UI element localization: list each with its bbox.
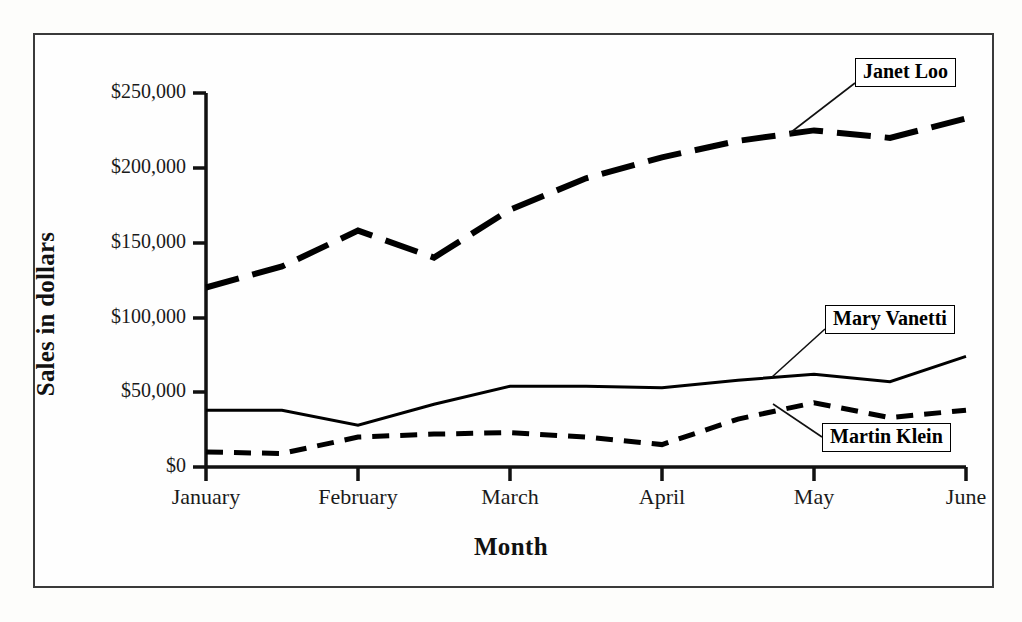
y-axis-title: Sales in dollars [32, 204, 60, 424]
x-axis-title: Month [0, 533, 1022, 561]
y-tick-label-50000: $50,000 [68, 379, 186, 402]
series-line-mary-vanetti [206, 356, 966, 425]
y-axis-ticks [193, 93, 206, 467]
series-callout-janet-loo[interactable]: Janet Loo [855, 58, 956, 87]
chart-page: $250,000 $200,000 $150,000 $100,000 $50,… [0, 0, 1022, 622]
x-axis-ticks [206, 467, 966, 481]
y-tick-label-250000: $250,000 [68, 80, 186, 103]
x-tick-label-january: January [136, 484, 276, 510]
x-tick-label-february: February [288, 484, 428, 510]
x-tick-label-april: April [592, 484, 732, 510]
leader-line-janet-loo [790, 83, 855, 133]
y-tick-label-200000: $200,000 [68, 155, 186, 178]
series-callout-martin-klein[interactable]: Martin Klein [822, 423, 951, 452]
y-tick-label-0: $0 [68, 454, 186, 477]
series-line-janet-loo [206, 118, 966, 287]
y-tick-label-150000: $150,000 [68, 230, 186, 253]
series-callout-mary-vanetti[interactable]: Mary Vanetti [825, 305, 955, 334]
x-tick-label-may: May [744, 484, 884, 510]
x-tick-label-june: June [896, 484, 1022, 510]
x-tick-label-march: March [440, 484, 580, 510]
y-tick-label-100000: $100,000 [68, 305, 186, 328]
leader-line-mary-vanetti [772, 329, 825, 377]
leader-line-martin-klein [773, 404, 822, 437]
